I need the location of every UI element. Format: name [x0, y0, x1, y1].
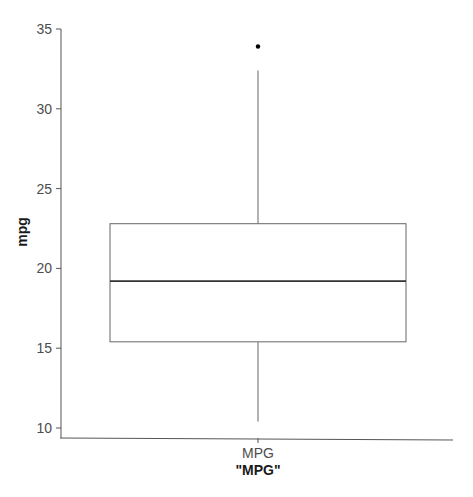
iqr-box — [110, 224, 406, 342]
x-tick-label: MPG — [242, 445, 274, 461]
y-tick-label: 35 — [36, 21, 52, 37]
box-plot-mpg — [110, 44, 406, 421]
x-axis-title: "MPG" — [235, 462, 280, 478]
outlier-point — [256, 44, 260, 48]
y-tick-label: 20 — [36, 260, 52, 276]
y-tick-label: 10 — [36, 420, 52, 436]
x-axis-line — [60, 438, 453, 440]
y-tick-label: 15 — [36, 340, 52, 356]
y-tick-label: 25 — [36, 181, 52, 197]
y-ticks: 101520253035 — [36, 21, 61, 436]
y-axis-title: mpg — [14, 217, 30, 247]
y-tick-label: 30 — [36, 101, 52, 117]
box-plot: 101520253035 MPG "MPG" mpg — [0, 0, 473, 497]
